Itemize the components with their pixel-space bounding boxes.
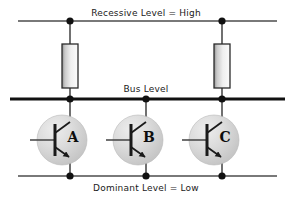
transistor-b-label: B (143, 129, 155, 145)
dominant-rail-label: Dominant Level = Low (93, 183, 199, 193)
node-dominant-c (218, 172, 225, 179)
node-bus-b (142, 95, 149, 102)
transistor-a-label: A (68, 129, 79, 145)
pull-up-resistor-left (62, 44, 78, 88)
resistor-group (62, 44, 230, 88)
node-dominant-a (66, 172, 73, 179)
circuit-canvas (0, 0, 293, 203)
transistor-c-label: C (219, 129, 230, 145)
node-bus-a (66, 95, 73, 102)
node-dominant-b (142, 172, 149, 179)
recessive-rail-label: Recessive Level = High (91, 8, 201, 18)
node-recessive-left (66, 17, 73, 24)
bus-rail-label: Bus Level (124, 84, 169, 94)
pull-up-resistor-right (214, 44, 230, 88)
node-recessive-right (218, 17, 225, 24)
can-bus-level-diagram: Recessive Level = High Bus Level Dominan… (0, 0, 293, 203)
node-bus-c (218, 95, 225, 102)
